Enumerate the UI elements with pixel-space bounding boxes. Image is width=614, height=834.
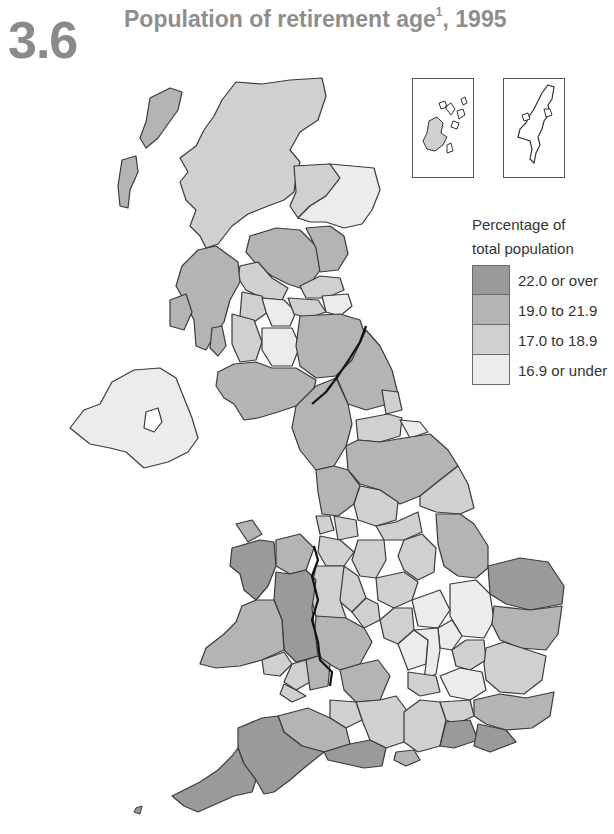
legend-swatch xyxy=(472,325,510,355)
region-berkshire xyxy=(408,672,440,696)
legend-items: 22.0 or over 19.0 to 21.9 17.0 to 18.9 1… xyxy=(472,265,607,385)
legend-title-line1: Percentage of xyxy=(472,213,607,237)
legend-item: 22.0 or over xyxy=(472,265,607,295)
region-ayrshire xyxy=(232,314,262,362)
region-cheshire xyxy=(318,536,354,566)
region-gwent xyxy=(306,656,330,690)
legend-label: 22.0 or over xyxy=(518,272,598,289)
region-durham xyxy=(356,414,402,442)
legend-item: 17.0 to 18.9 xyxy=(472,325,607,355)
region-derbyshire xyxy=(352,540,386,578)
legend-label: 16.9 or under xyxy=(518,362,607,379)
region-norfolk xyxy=(488,558,564,610)
region-merseyside xyxy=(316,516,334,534)
region-hertfordshire xyxy=(452,640,486,670)
legend-label: 17.0 to 18.9 xyxy=(518,332,597,349)
legend: Percentage of total population 22.0 or o… xyxy=(472,213,607,385)
region-western-isles-south xyxy=(118,156,138,208)
region-greater-london xyxy=(440,668,486,700)
region-kent xyxy=(474,692,554,730)
region-arran xyxy=(210,326,226,356)
region-gwynedd xyxy=(230,540,276,600)
isles-of-scilly xyxy=(134,806,142,814)
legend-swatch xyxy=(472,355,510,385)
legend-swatch xyxy=(472,295,510,325)
region-leicestershire xyxy=(376,572,418,608)
region-highland xyxy=(180,78,326,248)
region-west-sussex xyxy=(440,720,478,748)
region-northern-ireland xyxy=(70,368,198,468)
region-clwyd xyxy=(276,534,314,574)
region-northamptonshire xyxy=(412,590,450,628)
region-lincolnshire xyxy=(436,514,488,578)
region-greater-manchester xyxy=(334,516,358,540)
legend-label: 19.0 to 21.9 xyxy=(518,302,597,319)
region-east-lothian xyxy=(322,294,352,316)
uk-choropleth-map xyxy=(0,0,614,834)
region-hampshire xyxy=(404,700,446,752)
region-wiltshire xyxy=(356,696,408,748)
region-western-isles xyxy=(140,88,182,148)
region-tyne-wear xyxy=(382,390,402,414)
legend-item: 19.0 to 21.9 xyxy=(472,295,607,325)
region-anglesey xyxy=(236,520,262,542)
legend-title-line2: total population xyxy=(472,237,607,261)
legend-swatch xyxy=(472,265,510,295)
legend-item: 16.9 or under xyxy=(472,355,607,385)
region-isle-of-wight xyxy=(394,750,420,766)
region-south-lanark xyxy=(262,328,300,366)
